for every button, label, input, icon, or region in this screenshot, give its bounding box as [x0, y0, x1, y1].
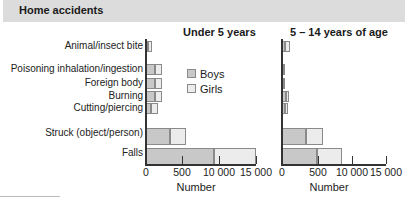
category-label: Cutting/piercing [74, 102, 143, 113]
x-axis-label: Number [176, 181, 215, 193]
x-tick-label: 0 [279, 166, 285, 178]
x-axis-label: Number [309, 181, 348, 193]
bar-girls [283, 78, 285, 89]
y-axis [145, 39, 147, 165]
bar-boys [282, 148, 317, 165]
legend-label-boys: Boys [200, 68, 224, 80]
bar-boys [146, 148, 214, 165]
x-tick-label: 15 000 [370, 166, 402, 178]
legend-label-girls: Girls [200, 83, 223, 95]
category-label: Struck (object/person) [45, 127, 143, 138]
bar-girls [170, 128, 186, 145]
x-tick-label: 15 000 [240, 166, 272, 178]
bar-girls [286, 91, 289, 102]
category-label: Burning [109, 90, 143, 101]
x-tick-label: 10 000 [336, 166, 368, 178]
bar-girls [148, 41, 152, 52]
x-tick-label: 10 000 [203, 166, 235, 178]
panel-title-5-14: 5 – 14 years of age [290, 26, 388, 38]
legend-item-girls: Girls [187, 81, 224, 96]
footer-rule [0, 196, 60, 197]
x-tick-label: 0 [143, 166, 149, 178]
girls-swatch [187, 84, 196, 93]
boys-swatch [187, 69, 196, 78]
x-tick-label: 500 [173, 166, 191, 178]
x-tick [219, 156, 220, 164]
bar-girls [155, 64, 162, 75]
category-label: Animal/insect bite [65, 40, 143, 51]
bar-boys [146, 91, 155, 102]
bar-girls [285, 103, 288, 114]
chart-title: Home accidents [19, 4, 103, 16]
legend-item-boys: Boys [187, 66, 224, 81]
bar-boys [146, 78, 155, 89]
category-label: Foreign body [85, 77, 143, 88]
bar-boys [146, 64, 155, 75]
x-tick [352, 156, 353, 164]
y-axis [281, 39, 283, 165]
x-tick [386, 156, 387, 164]
bar-girls [155, 91, 162, 102]
category-label: Falls [122, 147, 143, 158]
bar-girls [155, 78, 162, 89]
bar-girls [306, 128, 323, 145]
x-tick [318, 156, 319, 164]
x-tick-label: 500 [309, 166, 327, 178]
category-label: Poisoning inhalation/ingestion [11, 63, 143, 74]
bar-girls [283, 64, 285, 75]
bar-boys [282, 128, 306, 145]
bar-girls [317, 148, 342, 165]
bar-girls [214, 148, 256, 165]
legend: Boys Girls [187, 66, 224, 96]
bar-boys [146, 128, 170, 145]
bar-girls [285, 41, 290, 52]
panel-title-under-5: Under 5 years [183, 26, 256, 38]
header-bar: Home accidents [3, 0, 405, 22]
bar-girls [151, 103, 158, 114]
x-tick [256, 156, 257, 164]
x-tick [182, 156, 183, 164]
